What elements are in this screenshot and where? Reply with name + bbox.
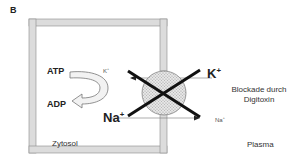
na-ion-outer-label: Na+ — [215, 117, 225, 123]
panel-label: B — [10, 6, 17, 15]
k-ion-inner-label: K+ — [103, 68, 109, 74]
blockade-annotation: Blockade durch Digitoxin — [219, 85, 299, 104]
k-charge: + — [107, 67, 109, 71]
na-ion-inner-label: Na+ — [103, 111, 124, 124]
adp-label: ADP — [47, 100, 66, 109]
atp-label: ATP — [47, 67, 64, 76]
plasma-label: Plasma — [247, 141, 274, 149]
cytosol-label: Zytosol — [52, 140, 78, 148]
na-symbol: Na — [215, 117, 223, 123]
na-charge: + — [223, 116, 225, 120]
na-symbol: Na — [103, 110, 120, 125]
na-charge: + — [120, 110, 125, 119]
atp-adp-curved-arrow-icon — [70, 72, 108, 108]
k-symbol: K — [207, 66, 216, 81]
k-charge: + — [216, 66, 221, 75]
k-ion-outer-label: K+ — [207, 67, 221, 80]
